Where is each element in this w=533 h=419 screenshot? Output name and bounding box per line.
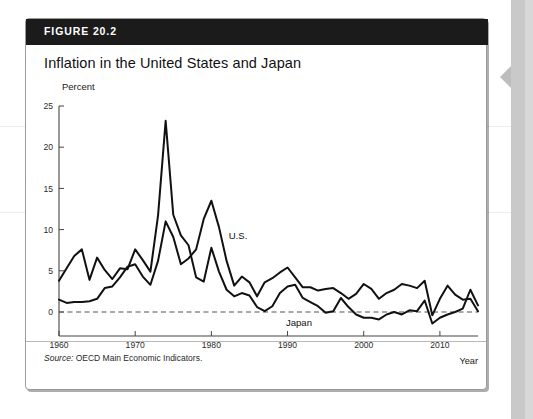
series-line-us bbox=[59, 201, 478, 316]
page-edge-inner-band bbox=[525, 0, 533, 419]
y-tick-label: 5 bbox=[48, 266, 53, 276]
source-text: OECD Main Economic Indicators. bbox=[73, 353, 202, 363]
x-axis-name: Year bbox=[459, 356, 478, 366]
source-note: Source: OECD Main Economic Indicators. bbox=[44, 353, 202, 363]
y-tick-label: 0 bbox=[48, 307, 53, 317]
y-tick-label: 15 bbox=[43, 184, 53, 194]
figure-card: FIGURE 20.2 Inflation in the United Stat… bbox=[25, 18, 487, 390]
y-tick-label: 25 bbox=[43, 101, 53, 111]
page-edge-notch-icon bbox=[500, 66, 511, 88]
source-label: Source: bbox=[44, 353, 73, 363]
series-line-japan bbox=[59, 121, 478, 324]
series-annotation: Japan bbox=[286, 317, 312, 328]
y-tick-label: 20 bbox=[43, 142, 53, 152]
y-tick-label: 10 bbox=[43, 225, 53, 235]
screenshot-root: FIGURE 20.2 Inflation in the United Stat… bbox=[0, 0, 533, 419]
plot-area: 0510152025196019701980199020002010U.S.Ja… bbox=[26, 19, 488, 391]
source-divider bbox=[26, 341, 486, 342]
series-annotation: U.S. bbox=[229, 230, 248, 241]
line-chart-svg: 0510152025196019701980199020002010U.S.Ja… bbox=[26, 19, 488, 391]
